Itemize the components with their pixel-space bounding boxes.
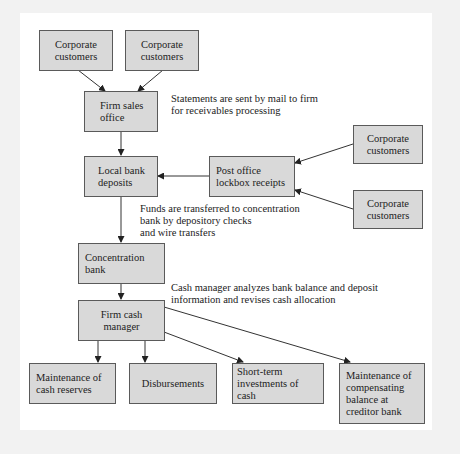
arrow-corp3-to-post	[295, 144, 353, 163]
node-disbursements: Disbursements	[129, 363, 217, 404]
node-label: Firm cash manager	[101, 309, 143, 333]
note-statements: Statements are sent by mail to firm for …	[171, 93, 318, 117]
node-label: Disbursements	[142, 378, 204, 390]
arrow-manager-to-compensating	[164, 307, 350, 362]
node-label: Concentration bank	[85, 252, 144, 276]
node-compensating-balance: Maintenance of compensating balance at c…	[339, 363, 425, 424]
node-firm-sales-office: Firm sales office	[84, 91, 158, 132]
note-cash-manager: Cash manager analyzes bank balance and d…	[171, 282, 378, 306]
node-label: Corporate customers	[367, 198, 410, 222]
node-corporate-customers-2: Corporate customers	[125, 30, 199, 71]
node-cash-reserves: Maintenance of cash reserves	[29, 363, 116, 404]
node-label: Maintenance of compensating balance at c…	[346, 370, 412, 418]
node-label: Corporate customers	[367, 133, 410, 157]
node-label: Corporate customers	[141, 39, 184, 63]
node-label: Post office lockbox receipts	[216, 165, 285, 189]
node-concentration-bank: Concentration bank	[78, 243, 165, 284]
arrow-corp2-to-sales	[138, 70, 163, 91]
arrow-corp1-to-sales	[78, 70, 105, 91]
node-firm-cash-manager: Firm cash manager	[78, 300, 165, 341]
node-local-bank-deposits: Local bank deposits	[84, 156, 158, 197]
node-label: Corporate customers	[55, 39, 98, 63]
node-short-term-investments: Short-term investments of cash	[232, 363, 324, 404]
node-label: Maintenance of cash reserves	[36, 372, 102, 396]
arrow-manager-to-shortterm	[164, 332, 243, 362]
arrow-corp4-to-post	[295, 190, 353, 209]
node-label: Local bank deposits	[98, 165, 145, 189]
node-corporate-customers-4: Corporate customers	[353, 190, 423, 229]
note-funds-transfer: Funds are transferred to concentration b…	[140, 203, 300, 239]
node-label: Firm sales office	[100, 100, 143, 124]
node-label: Short-term investments of cash	[237, 366, 317, 402]
node-post-office-lockbox: Post office lockbox receipts	[209, 156, 295, 197]
node-corporate-customers-1: Corporate customers	[39, 30, 113, 71]
node-corporate-customers-3: Corporate customers	[353, 125, 423, 164]
